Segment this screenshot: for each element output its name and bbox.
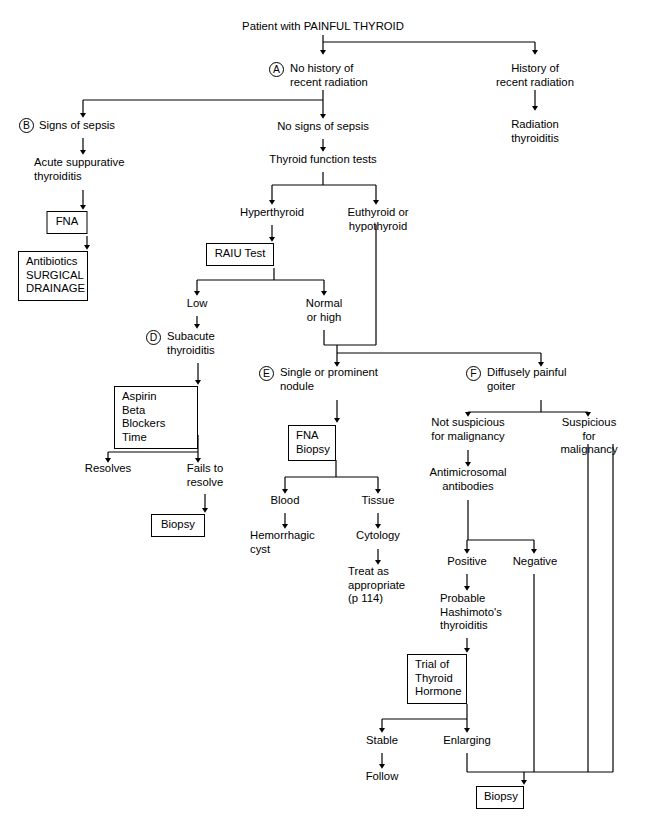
node-signs-of-sepsis: Signs of sepsis <box>39 119 115 133</box>
node-cytology: Cytology <box>356 529 400 543</box>
node-antimicrosomal-antibodies: Antimicrosomal antibodies <box>429 466 506 493</box>
node-tissue: Tissue <box>362 494 395 508</box>
node-aspirin-beta-blockers-time-box: Aspirin Beta Blockers Time <box>114 386 198 449</box>
node-resolves: Resolves <box>85 462 131 476</box>
node-suspicious-for-malignancy: Suspicious for malignancy <box>558 416 620 457</box>
tag-a-marker: A <box>269 62 284 77</box>
node-subacute-thyroiditis: Subacute thyroiditis <box>167 330 215 357</box>
node-euthyroid-or-hypothyroid: Euthyroid or hypothyroid <box>348 206 409 233</box>
tag-e-marker: E <box>259 366 274 381</box>
node-blood: Blood <box>271 494 300 508</box>
node-fna-box: FNA <box>47 211 88 234</box>
node-radiation-thyroiditis: Radiation thyroiditis <box>511 118 559 145</box>
node-acute-suppurative-thyroiditis: Acute suppurative thyroiditis <box>34 156 124 183</box>
node-root-title: Patient with PAINFUL THYROID <box>242 20 404 34</box>
node-raiu-test-box: RAIU Test <box>206 243 274 266</box>
node-trial-of-thyroid-hormone-box: Trial of Thyroid Hormone <box>407 654 467 704</box>
node-thyroid-function-tests: Thyroid function tests <box>269 153 376 167</box>
node-single-or-prominent-nodule: Single or prominent nodule <box>280 366 378 393</box>
node-biopsy-box-left: Biopsy <box>151 514 205 537</box>
node-enlarging: Enlarging <box>443 734 491 748</box>
node-not-suspicious-for-malignancy: Not suspicious for malignancy <box>431 416 504 443</box>
node-treat-as-appropriate: Treat as appropriate (p 114) <box>348 565 405 606</box>
node-low: Low <box>187 297 208 311</box>
node-positive: Positive <box>447 555 487 569</box>
node-normal-or-high: Normal or high <box>306 297 342 324</box>
node-no-signs-of-sepsis: No signs of sepsis <box>277 120 369 134</box>
node-antibiotics-surgical-drainage-box: Antibiotics SURGICAL DRAINAGE <box>18 251 88 301</box>
node-diffusely-painful-goiter: Diffusely painful goiter <box>487 366 567 393</box>
node-history-radiation: History of recent radiation <box>496 62 574 89</box>
node-follow: Follow <box>366 770 399 784</box>
tag-f-marker: F <box>466 366 481 381</box>
node-fna-biopsy-box: FNA Biopsy <box>288 425 336 461</box>
tag-d-marker: D <box>146 330 161 345</box>
node-biopsy-box-right: Biopsy <box>476 786 524 809</box>
node-negative: Negative <box>513 555 558 569</box>
node-hyperthyroid: Hyperthyroid <box>240 206 304 220</box>
node-hemorrhagic-cyst: Hemorrhagic cyst <box>250 529 315 556</box>
tag-b-marker: B <box>19 118 34 133</box>
node-no-history-radiation: No history of recent radiation <box>290 62 368 89</box>
node-probable-hashimotos-thyroiditis: Probable Hashimoto's thyroiditis <box>440 592 502 633</box>
flowchart-diagram: A B C D E F Patient with PAINFUL THYROID… <box>0 0 651 835</box>
node-stable: Stable <box>366 734 398 748</box>
node-fails-to-resolve: Fails to resolve <box>187 462 223 489</box>
